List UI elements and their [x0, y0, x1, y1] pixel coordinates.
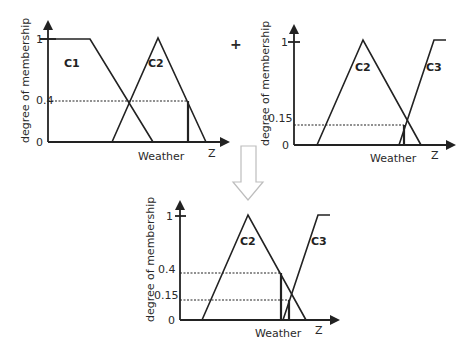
- membership-c2: [317, 40, 421, 145]
- tick-label-one: 1: [166, 210, 173, 223]
- set-label-c2: C2: [148, 57, 164, 70]
- chart-top-right: 1 0.15 0 degree of membership Weather Z …: [259, 21, 454, 165]
- set-label-c2: C2: [355, 61, 371, 74]
- y-axis-label: degree of membership: [19, 18, 32, 143]
- set-label-c3: C3: [426, 61, 442, 74]
- tick-label-zero: 0: [282, 139, 289, 152]
- chart-top-left: 1 0.4 0 degree of membership Weather Z C…: [19, 18, 228, 163]
- membership-c2: [112, 38, 206, 142]
- set-label-c3: C3: [311, 235, 327, 248]
- x-axis-var: Z: [431, 149, 439, 162]
- down-arrow-icon: [233, 146, 263, 200]
- tick-label-zero: 0: [168, 314, 175, 327]
- tick-label-cut-low: 0.15: [154, 289, 179, 302]
- x-axis-label: Weather: [138, 150, 185, 163]
- x-axis-var: Z: [315, 324, 323, 337]
- membership-c1: [40, 39, 153, 142]
- membership-c3: [399, 40, 446, 145]
- set-label-c1: C1: [64, 57, 80, 70]
- set-label-c2: C2: [240, 235, 256, 248]
- membership-c2: [202, 215, 306, 320]
- x-axis-label: Weather: [255, 327, 302, 340]
- tick-label-cut-high: 0.4: [158, 263, 176, 276]
- fuzzy-membership-diagram: 1 0.4 0 degree of membership Weather Z C…: [0, 0, 472, 352]
- chart-bottom: 1 0.4 0.15 0 degree of membership Weathe…: [144, 197, 338, 340]
- tick-label-one: 1: [281, 36, 288, 49]
- x-axis-label: Weather: [370, 152, 417, 165]
- y-axis-label: degree of membership: [259, 21, 272, 146]
- tick-label-cut: 0.4: [36, 94, 54, 107]
- x-axis-var: Z: [208, 147, 216, 160]
- plus-operator: +: [230, 36, 242, 52]
- tick-label-zero: 0: [36, 136, 43, 149]
- y-axis-label: degree of membership: [144, 197, 157, 322]
